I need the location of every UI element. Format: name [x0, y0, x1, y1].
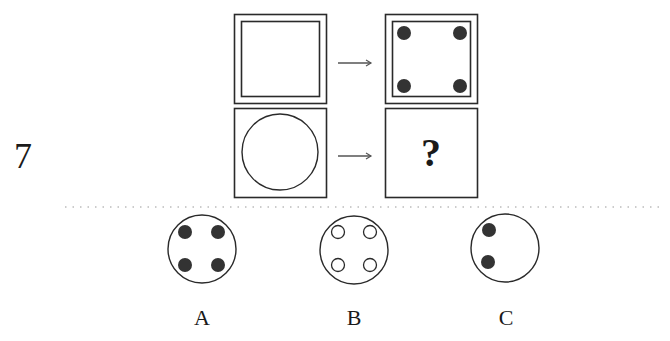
option-c-figure[interactable] — [471, 214, 539, 282]
puzzle-canvas — [0, 0, 670, 341]
option-b-figure[interactable] — [320, 216, 388, 284]
option-b-label[interactable]: B — [334, 306, 374, 330]
question-number: 7 — [14, 136, 32, 176]
option-a-figure[interactable] — [168, 215, 236, 283]
option-c-label[interactable]: C — [486, 306, 526, 330]
arrow-right-icon — [338, 60, 371, 66]
option-a-label[interactable]: A — [182, 306, 222, 330]
figure-circle-in-square — [235, 109, 327, 198]
question-mark: ? — [411, 133, 451, 173]
figure-square-in-square-four-dots — [386, 15, 478, 104]
arrow-right-icon — [338, 153, 371, 159]
figure-square-in-square — [235, 15, 327, 104]
